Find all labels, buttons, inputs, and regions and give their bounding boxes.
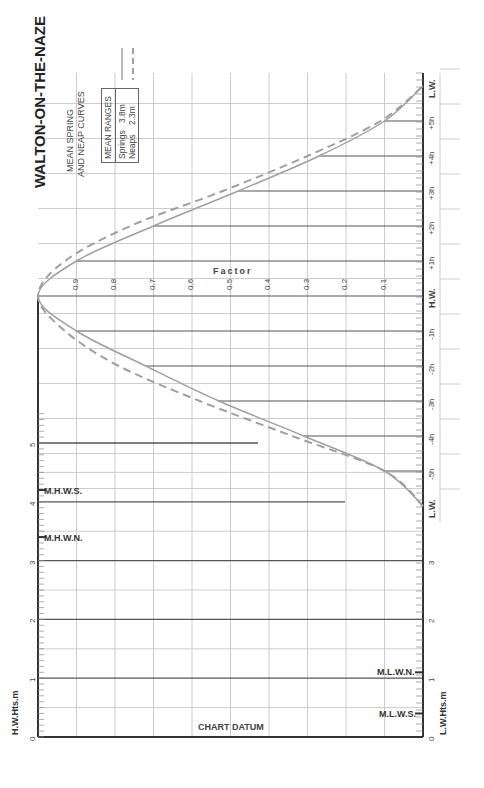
time-tick: +2h <box>427 221 436 235</box>
lw-height-tick: 3 <box>427 560 436 564</box>
factor-tick: 0.8 <box>109 279 118 290</box>
time-tick: +5h <box>427 116 436 130</box>
time-tick: -5h <box>427 468 436 480</box>
level-mlwn: M.L.W.N. <box>377 667 415 677</box>
legend-row-springs: Springs 3.8m <box>117 92 127 159</box>
factor-tick: 0.6 <box>186 279 195 290</box>
lw-height-tick: 1 <box>427 678 436 682</box>
hw-height-tick: 1 <box>28 678 37 682</box>
time-tick: H.W. <box>427 289 437 309</box>
level-mlws: M.L.W.S. <box>379 709 416 719</box>
subtitle-line-2: AND NEAP CURVES <box>76 91 86 177</box>
legend-header: MEAN RANGES <box>102 89 116 162</box>
level-mhws: M.H.W.S. <box>44 486 82 496</box>
time-tick: -1h <box>427 328 436 340</box>
factor-tick: 0.7 <box>148 279 157 290</box>
factor-label: Factor <box>213 266 253 276</box>
factor-tick: 0.1 <box>379 279 388 290</box>
subtitle-line-1: MEAN SPRING <box>65 109 75 172</box>
hw-heights-label: H.W.Hts.m <box>10 690 20 735</box>
hw-height-tick: 5 <box>28 443 37 447</box>
lw-height-tick: 0 <box>427 737 436 741</box>
factor-tick: 0.3 <box>302 279 311 290</box>
hw-height-tick: 2 <box>28 619 37 623</box>
time-tick: -2h <box>427 363 436 375</box>
lw-height-tick: 2 <box>427 619 436 623</box>
time-tick: L.W. <box>427 80 437 99</box>
hw-height-tick: 3 <box>28 560 37 564</box>
time-tick: -3h <box>427 398 436 410</box>
time-tick: L.W. <box>427 500 437 519</box>
time-tick: +1h <box>427 256 436 270</box>
hw-height-tick: 4 <box>28 501 37 505</box>
factor-tick: 0.4 <box>263 279 272 290</box>
level-mhwn: M.H.W.N. <box>44 533 83 543</box>
factor-tick: 0.9 <box>71 279 80 290</box>
time-tick: +3h <box>427 186 436 200</box>
factor-tick: 0.5 <box>225 279 234 290</box>
time-tick: +4h <box>427 151 436 165</box>
time-tick: -4h <box>427 433 436 445</box>
chart-datum-label: CHART DATUM <box>198 722 264 732</box>
chart-title: WALTON-ON-THE-NAZE <box>31 16 48 188</box>
legend-row-neaps: Neaps 2.3m <box>127 92 137 159</box>
factor-tick: 0.2 <box>340 279 349 290</box>
lw-heights-label: L.W.Hts.m <box>438 691 448 735</box>
hw-height-tick: 0 <box>28 737 37 741</box>
legend-box: MEAN RANGES Springs 3.8m Neaps 2.3m <box>101 88 139 163</box>
